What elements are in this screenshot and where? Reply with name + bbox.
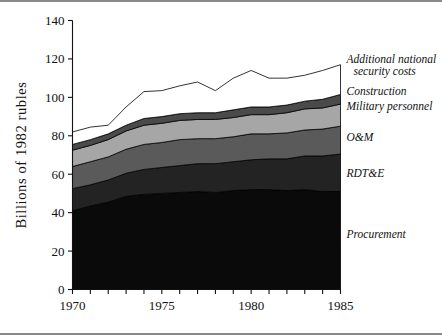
y-tick-label: 0 xyxy=(58,282,65,297)
y-tick-label: 80 xyxy=(52,128,65,143)
y-tick-label: 60 xyxy=(52,167,65,182)
chart-figure: 0204060801001201401970197519801985Billio… xyxy=(0,0,442,335)
series-label-5: RDT&E xyxy=(346,167,385,179)
series-labels: Additional nationalsecurity costsConstru… xyxy=(346,53,437,240)
x-tick-label: 1970 xyxy=(60,298,86,313)
x-tick-label: 1980 xyxy=(238,298,264,313)
plot-areas xyxy=(73,65,341,290)
area-band-procurement xyxy=(73,190,341,290)
y-tick-label: 120 xyxy=(45,51,65,66)
y-tick-label: 40 xyxy=(52,205,65,220)
x-tick-label: 1985 xyxy=(328,298,354,313)
x-tick-label: 1975 xyxy=(149,298,175,313)
series-label-0: Additional national xyxy=(346,53,437,65)
stacked-area-chart: 0204060801001201401970197519801985Billio… xyxy=(0,0,442,335)
y-tick-label: 100 xyxy=(45,90,65,105)
y-axis-title: Billions of 1982 rubles xyxy=(13,81,29,228)
y-tick-label: 20 xyxy=(52,244,65,259)
series-label-1: security costs xyxy=(354,65,417,78)
series-label-2: Construction xyxy=(347,85,407,97)
series-label-3: Military personnel xyxy=(346,100,433,113)
series-label-6: Procurement xyxy=(346,228,407,240)
y-tick-label: 140 xyxy=(45,13,65,28)
series-label-4: O&M xyxy=(347,131,375,143)
